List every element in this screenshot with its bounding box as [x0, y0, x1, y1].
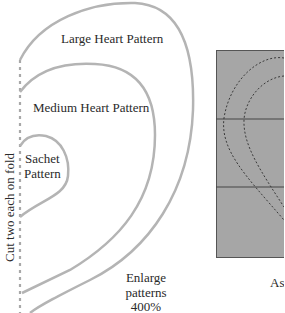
sachet-label-line1: Sachet [25, 151, 60, 166]
assembly-panel [217, 51, 285, 258]
sachet-label-line2: Pattern [24, 166, 61, 181]
enlarge-note-line1: Enlarge [100, 270, 192, 285]
enlarge-note-line2: patterns [100, 285, 192, 300]
fold-instruction-label: Cut two each on fold [2, 153, 18, 262]
assembly-caption: As [270, 275, 284, 290]
medium-heart-label: Medium Heart Pattern [33, 100, 149, 115]
large-heart-label: Large Heart Pattern [61, 31, 163, 46]
enlarge-note-line3: 400% [100, 299, 192, 313]
